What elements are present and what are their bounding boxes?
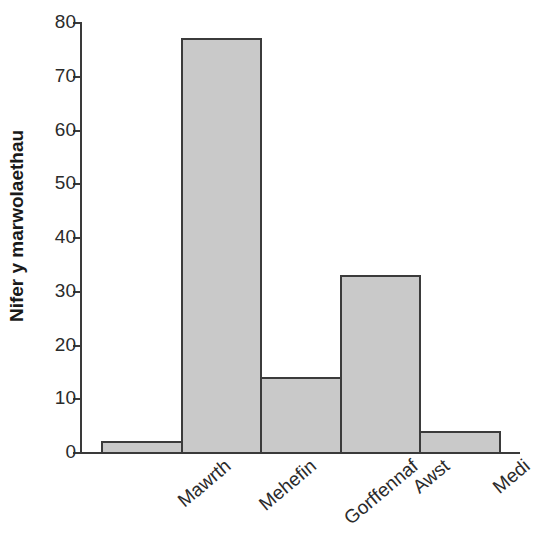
bar[interactable] xyxy=(181,38,263,452)
bar-series xyxy=(101,22,501,452)
y-axis-tick-label: 20 xyxy=(55,334,76,356)
y-axis-tick-label: 50 xyxy=(55,172,76,194)
y-axis-tick-label: 80 xyxy=(55,11,76,33)
bar[interactable] xyxy=(101,441,183,452)
y-axis-tick-label: 0 xyxy=(65,441,76,463)
x-axis-tick-label: Mawrth xyxy=(173,455,235,512)
y-axis-line xyxy=(80,22,82,453)
x-axis-line xyxy=(80,452,520,454)
x-axis-tick-labels: MawrthMehefinGorffennafAwstMedi xyxy=(101,455,501,549)
plot-area: 01020304050607080 xyxy=(80,22,520,452)
bar-chart: Nifer y marwolaethau 01020304050607080 M… xyxy=(0,0,545,549)
bar[interactable] xyxy=(340,275,422,452)
x-axis-tick-label: Medi xyxy=(488,455,534,498)
y-axis-title: Nifer y marwolaethau xyxy=(0,0,34,452)
y-axis-title-label: Nifer y marwolaethau xyxy=(6,130,28,322)
x-axis-tick-label: Gorffennaf xyxy=(340,455,423,529)
y-axis-tick-label: 40 xyxy=(55,226,76,248)
bar[interactable] xyxy=(419,431,501,453)
y-axis-tick-label: 60 xyxy=(55,119,76,141)
bar[interactable] xyxy=(260,377,342,452)
x-axis-tick-label: Mehefin xyxy=(254,455,320,515)
x-axis-tick-label: Awst xyxy=(408,455,453,498)
y-axis-tick-label: 70 xyxy=(55,65,76,87)
y-axis-tick-label: 30 xyxy=(55,280,76,302)
y-axis-tick-label: 10 xyxy=(55,387,76,409)
